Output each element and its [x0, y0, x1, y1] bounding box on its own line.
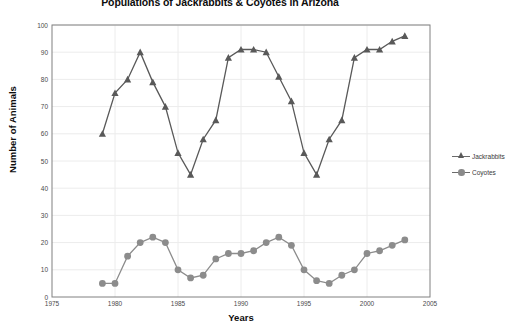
- data-point-coyotes[interactable]: [351, 266, 358, 273]
- data-point-coyotes[interactable]: [99, 280, 106, 287]
- population-line-chart: Populations of Jackrabbits & Coyotes in …: [0, 0, 514, 329]
- data-point-coyotes[interactable]: [124, 253, 131, 260]
- data-point-jackrabbits[interactable]: [288, 98, 295, 105]
- data-point-coyotes[interactable]: [389, 242, 396, 249]
- data-point-jackrabbits[interactable]: [225, 54, 232, 61]
- data-point-jackrabbits[interactable]: [351, 54, 358, 61]
- data-point-coyotes[interactable]: [401, 236, 408, 243]
- legend-item-jackrabbits[interactable]: Jackrabbits: [452, 148, 514, 164]
- jackrabbits-marker-icon: [452, 150, 470, 162]
- data-point-coyotes[interactable]: [238, 250, 245, 257]
- data-point-jackrabbits[interactable]: [389, 38, 396, 45]
- data-point-coyotes[interactable]: [364, 250, 371, 257]
- data-point-coyotes[interactable]: [187, 275, 194, 282]
- data-point-coyotes[interactable]: [149, 234, 156, 241]
- data-point-coyotes[interactable]: [200, 272, 207, 279]
- data-point-coyotes[interactable]: [175, 266, 182, 273]
- data-point-coyotes[interactable]: [301, 266, 308, 273]
- data-point-jackrabbits[interactable]: [313, 171, 320, 178]
- legend-item-coyotes[interactable]: Coyotes: [452, 164, 514, 180]
- data-point-coyotes[interactable]: [225, 250, 232, 257]
- data-point-coyotes[interactable]: [263, 239, 270, 246]
- legend-label-jackrabbits: Jackrabbits: [470, 153, 505, 160]
- data-point-jackrabbits[interactable]: [300, 149, 307, 156]
- data-point-coyotes[interactable]: [250, 247, 257, 254]
- data-point-coyotes[interactable]: [137, 239, 144, 246]
- data-point-jackrabbits[interactable]: [275, 73, 282, 80]
- data-point-coyotes[interactable]: [326, 280, 333, 287]
- series-layer: [99, 32, 409, 287]
- data-point-coyotes[interactable]: [376, 247, 383, 254]
- x-axis-label: Years: [52, 312, 430, 323]
- data-point-coyotes[interactable]: [288, 242, 295, 249]
- data-point-coyotes[interactable]: [112, 280, 119, 287]
- data-point-jackrabbits[interactable]: [401, 32, 408, 39]
- legend-label-coyotes: Coyotes: [470, 169, 496, 176]
- data-point-jackrabbits[interactable]: [338, 117, 345, 124]
- data-point-coyotes[interactable]: [162, 239, 169, 246]
- data-point-coyotes[interactable]: [275, 234, 282, 241]
- plot-area: [0, 0, 514, 329]
- series-line-jackrabbits: [102, 36, 404, 175]
- data-point-jackrabbits[interactable]: [200, 136, 207, 143]
- data-point-jackrabbits[interactable]: [212, 117, 219, 124]
- data-point-coyotes[interactable]: [313, 277, 320, 284]
- data-point-jackrabbits[interactable]: [326, 136, 333, 143]
- data-point-coyotes[interactable]: [212, 256, 219, 263]
- series-line-coyotes: [102, 237, 404, 283]
- data-point-jackrabbits[interactable]: [174, 149, 181, 156]
- chart-legend: Jackrabbits Coyotes: [452, 148, 514, 180]
- coyotes-marker-icon: [452, 166, 470, 178]
- data-point-jackrabbits[interactable]: [187, 171, 194, 178]
- data-point-coyotes[interactable]: [338, 272, 345, 279]
